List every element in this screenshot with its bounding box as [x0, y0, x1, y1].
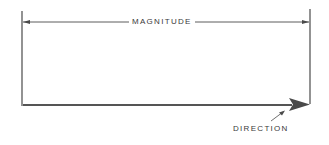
magnitude-label: MAGNITUDE [129, 18, 195, 26]
magnitude-arrowhead-right-icon [302, 20, 309, 24]
vector-arrowhead-icon [289, 98, 310, 111]
direction-label: DIRECTION [233, 125, 289, 133]
magnitude-arrowhead-left-icon [23, 20, 30, 24]
vector-diagram: MAGNITUDE DIRECTION [0, 0, 329, 145]
